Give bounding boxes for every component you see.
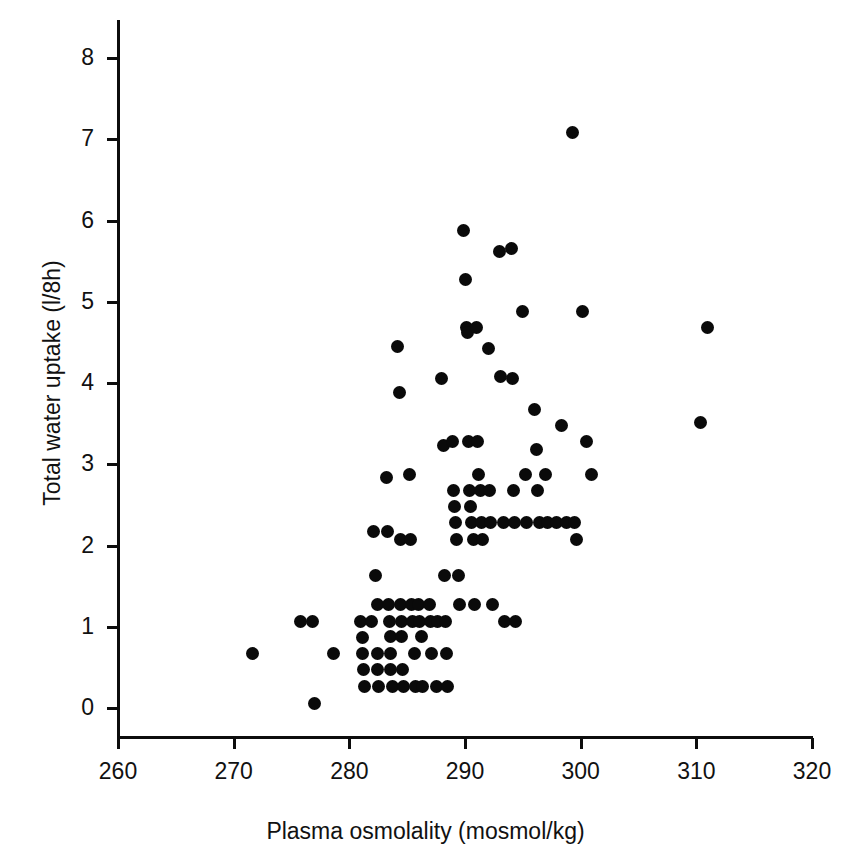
- y-tick: [107, 463, 118, 466]
- data-point: [450, 533, 463, 546]
- y-tick-label: 8: [68, 46, 94, 69]
- y-tick: [107, 382, 118, 385]
- data-point: [446, 435, 459, 448]
- data-point: [555, 419, 568, 432]
- data-point: [505, 242, 518, 255]
- y-tick-label: 3: [68, 452, 94, 475]
- x-tick-label: 320: [777, 760, 847, 783]
- data-point: [438, 569, 451, 582]
- data-point: [356, 647, 369, 660]
- x-tick: [348, 738, 351, 749]
- y-tick: [107, 545, 118, 548]
- data-point: [471, 435, 484, 448]
- data-point: [425, 647, 438, 660]
- x-axis-title: Plasma osmolality (mosmol/kg): [0, 818, 851, 844]
- data-point: [380, 471, 393, 484]
- y-tick-label: 6: [68, 209, 94, 232]
- y-tick-label: 7: [68, 127, 94, 150]
- y-tick: [107, 57, 118, 60]
- plot-area: 012345678 260270280290300310320 Plasma o…: [0, 0, 851, 862]
- data-point: [539, 468, 552, 481]
- data-point: [439, 615, 452, 628]
- data-point: [580, 435, 593, 448]
- y-tick: [107, 138, 118, 141]
- x-tick: [695, 738, 698, 749]
- scatter-plot-figure: 012345678 260270280290300310320 Plasma o…: [0, 0, 851, 862]
- x-tick-label: 270: [199, 760, 269, 783]
- data-point: [468, 598, 481, 611]
- y-tick: [107, 707, 118, 710]
- data-point: [520, 516, 533, 529]
- x-tick: [233, 738, 236, 749]
- data-point: [391, 340, 404, 353]
- data-point: [472, 468, 485, 481]
- data-point: [484, 516, 497, 529]
- data-point: [372, 680, 385, 693]
- data-point: [357, 663, 370, 676]
- data-point: [464, 500, 477, 513]
- data-point: [470, 321, 483, 334]
- data-point: [452, 569, 465, 582]
- x-tick-label: 300: [546, 760, 616, 783]
- data-point: [447, 484, 460, 497]
- data-point: [371, 647, 384, 660]
- x-tick-label: 280: [314, 760, 384, 783]
- data-point: [327, 647, 340, 660]
- data-point: [308, 697, 321, 710]
- y-tick-label: 1: [68, 615, 94, 638]
- data-point: [306, 615, 319, 628]
- data-point: [482, 342, 495, 355]
- y-tick: [107, 301, 118, 304]
- data-point: [371, 663, 384, 676]
- data-point: [519, 468, 532, 481]
- x-tick: [117, 738, 120, 749]
- data-point: [365, 615, 378, 628]
- data-point: [448, 500, 461, 513]
- data-point: [507, 484, 520, 497]
- data-point: [404, 533, 417, 546]
- data-point: [369, 569, 382, 582]
- data-point: [570, 533, 583, 546]
- data-point: [483, 484, 496, 497]
- y-tick: [107, 220, 118, 223]
- y-axis-title: Total water uptake (l/8h): [39, 83, 65, 683]
- data-point: [403, 468, 416, 481]
- data-point: [509, 615, 522, 628]
- data-point: [506, 372, 519, 385]
- y-tick-label: 5: [68, 290, 94, 313]
- data-point: [435, 372, 448, 385]
- x-tick-label: 310: [661, 760, 731, 783]
- data-point: [701, 321, 714, 334]
- data-point: [423, 598, 436, 611]
- data-point: [585, 468, 598, 481]
- data-point: [459, 273, 472, 286]
- data-point: [441, 680, 454, 693]
- data-point: [457, 224, 470, 237]
- data-point: [384, 647, 397, 660]
- x-tick: [464, 738, 467, 749]
- data-point: [356, 631, 369, 644]
- data-point: [576, 305, 589, 318]
- data-point: [449, 516, 462, 529]
- data-point: [530, 443, 543, 456]
- data-point: [568, 516, 581, 529]
- data-point: [453, 598, 466, 611]
- data-point: [516, 305, 529, 318]
- y-tick-label: 2: [68, 534, 94, 557]
- data-point: [476, 533, 489, 546]
- data-point: [393, 386, 406, 399]
- data-point: [408, 647, 421, 660]
- data-point: [415, 630, 428, 643]
- data-point: [531, 484, 544, 497]
- x-tick: [811, 738, 814, 749]
- data-point: [246, 647, 259, 660]
- x-tick-label: 260: [83, 760, 153, 783]
- data-point: [528, 403, 541, 416]
- x-tick-label: 290: [430, 760, 500, 783]
- data-point: [440, 647, 453, 660]
- x-tick: [580, 738, 583, 749]
- y-tick-label: 4: [68, 371, 94, 394]
- y-tick: [107, 626, 118, 629]
- data-point: [358, 680, 371, 693]
- data-point: [566, 126, 579, 139]
